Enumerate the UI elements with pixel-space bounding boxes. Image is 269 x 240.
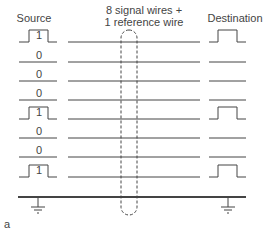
bit-value: 0: [30, 144, 48, 156]
cable-bundle-outline: [121, 30, 137, 215]
bit-value: 0: [30, 49, 48, 61]
destination-pulse: [209, 107, 246, 119]
bit-value: 0: [30, 87, 48, 99]
destination-pulse: [209, 30, 246, 42]
bit-value: 1: [30, 164, 48, 176]
bit-value: 1: [30, 29, 48, 41]
bit-value: 1: [30, 106, 48, 118]
bit-value: 0: [30, 125, 48, 137]
destination-pulse: [209, 165, 246, 177]
bit-value: 0: [30, 68, 48, 80]
